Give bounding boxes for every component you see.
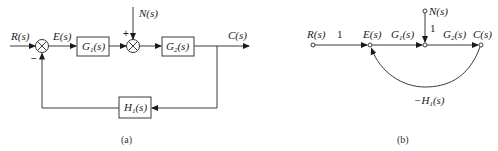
branch-c-to-e-gain: −H1(s) — [414, 94, 445, 108]
branch-e-to-mid-gain: G1(s) — [391, 28, 414, 42]
svg-text:G1(s): G1(s) — [82, 40, 105, 54]
g1-block: G1(s) — [77, 37, 109, 56]
node-n — [423, 9, 427, 13]
node-c-label: C(s) — [473, 28, 492, 41]
node-r-label: R(s) — [306, 28, 326, 41]
summing-junction-2 — [127, 40, 140, 53]
disturbance-label: N(s) — [138, 7, 158, 20]
caption-b: (b) — [397, 134, 409, 146]
node-e-label: E(s) — [362, 28, 382, 41]
node-e — [368, 43, 372, 47]
error-label: E(s) — [52, 30, 72, 43]
branch-n-to-mid-gain: 1 — [430, 22, 436, 34]
caption-a: (a) — [121, 134, 132, 146]
summing-junction-1 — [36, 40, 49, 53]
input-label: R(s) — [10, 30, 30, 43]
node-r — [311, 43, 315, 47]
diagram-canvas: R(s) − E(s) G1(s) + N(s) — [0, 0, 498, 151]
output-label: C(s) — [228, 29, 247, 42]
feedback-path-left — [42, 54, 119, 109]
svg-text:H1(s): H1(s) — [123, 101, 147, 115]
svg-text:G2(s): G2(s) — [166, 40, 189, 54]
node-n-label: N(s) — [428, 5, 448, 18]
h1-block: H1(s) — [119, 97, 151, 118]
g2-block: G2(s) — [162, 37, 194, 56]
branch-c-to-e — [372, 47, 481, 87]
disturbance-plus-sign: + — [123, 28, 129, 39]
node-mid — [423, 43, 427, 47]
signal-flow-graph: 1 G1(s) 1 G2(s) −H1(s) R(s) E(s) C(s) N(… — [306, 5, 492, 146]
branch-mid-to-c-gain: G2(s) — [443, 28, 466, 42]
node-c — [479, 43, 483, 47]
branch-r-to-e-gain: 1 — [337, 28, 343, 40]
feedback-minus-sign: − — [31, 53, 37, 64]
block-diagram: R(s) − E(s) G1(s) + N(s) — [10, 7, 249, 146]
